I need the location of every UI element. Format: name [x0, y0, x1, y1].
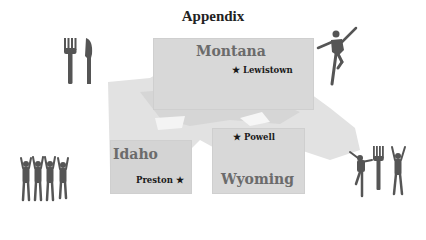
dancer-fork-person-icon — [348, 144, 410, 200]
wyoming-region: ★ Powell Wyoming — [212, 128, 305, 194]
montana-region: Montana ★ Lewistown — [153, 38, 314, 110]
star-icon: ★ — [232, 65, 240, 75]
star-icon: ★ — [233, 132, 241, 142]
lewistown-marker: ★ Lewistown — [232, 65, 293, 75]
dancer-icon — [314, 24, 362, 90]
fork-knife-icon — [62, 36, 98, 86]
preston-marker: Preston ★ — [136, 175, 184, 185]
preston-label: Preston — [136, 175, 173, 185]
montana-label: Montana — [196, 43, 266, 59]
lewistown-label: Lewistown — [243, 65, 293, 75]
idaho-label: Idaho — [113, 146, 158, 162]
star-icon: ★ — [176, 175, 184, 185]
powell-label: Powell — [244, 132, 275, 142]
idaho-region: Idaho Preston ★ — [110, 140, 192, 194]
powell-marker: ★ Powell — [233, 132, 275, 142]
wyoming-label: Wyoming — [221, 171, 294, 187]
cheering-people-icon — [18, 156, 74, 202]
